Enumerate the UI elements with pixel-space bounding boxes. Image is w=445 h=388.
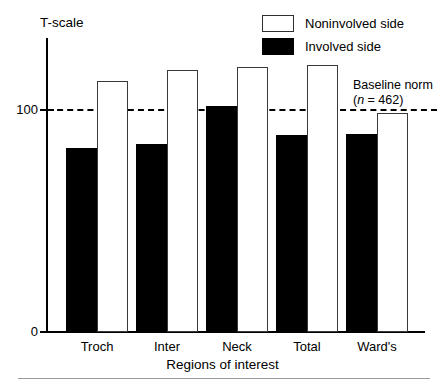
chart-legend: Noninvolved side Involved side xyxy=(262,14,404,60)
legend-label-noninvolved: Noninvolved side xyxy=(305,16,404,31)
y-tick-label-100: 100 xyxy=(4,103,38,116)
plot-area xyxy=(47,38,422,332)
bar-noninvolved-wards xyxy=(377,113,408,332)
x-tick-label-total: Total xyxy=(272,339,342,354)
bar-involved-total xyxy=(276,135,307,332)
bar-noninvolved-neck xyxy=(237,67,268,332)
y-tick-label-0: 0 xyxy=(18,325,38,338)
x-tick-label-troch: Troch xyxy=(62,339,132,354)
x-tick-label-neck: Neck xyxy=(202,339,272,354)
legend-item-involved: Involved side xyxy=(262,37,404,56)
bar-involved-troch xyxy=(66,148,97,332)
bar-involved-inter xyxy=(136,144,167,332)
filled-rect-swatch-icon xyxy=(262,38,294,55)
bar-involved-neck xyxy=(206,106,237,332)
x-tick-label-inter: Inter xyxy=(132,339,202,354)
bar-chart-figure: T-scale 100 0 Baseline norm (n = 462) Tr… xyxy=(0,0,445,388)
x-tick-label-wards: Ward's xyxy=(342,339,412,354)
open-rect-swatch-icon xyxy=(262,15,294,32)
bar-noninvolved-troch xyxy=(97,81,128,332)
bar-involved-wards xyxy=(346,134,377,332)
footer-divider xyxy=(18,378,430,379)
legend-item-noninvolved: Noninvolved side xyxy=(262,14,404,33)
y-axis-title: T-scale xyxy=(40,15,84,30)
legend-label-involved: Involved side xyxy=(305,39,381,54)
bar-noninvolved-inter xyxy=(167,70,198,332)
bar-noninvolved-total xyxy=(307,65,338,332)
x-axis-title: Regions of interest xyxy=(0,357,445,373)
